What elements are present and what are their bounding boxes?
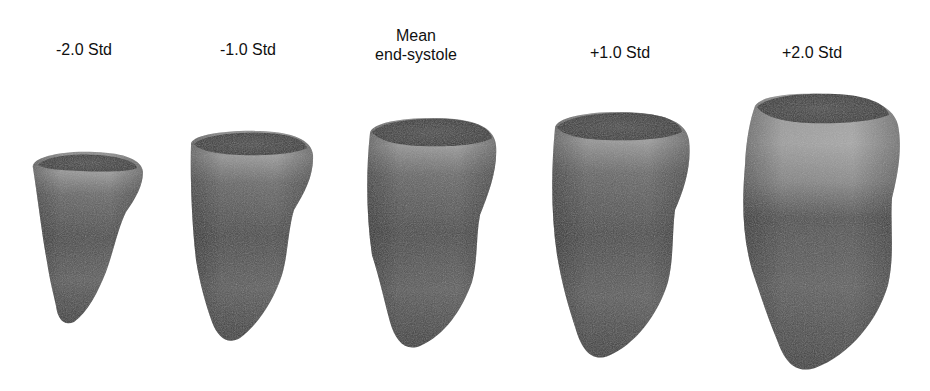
ventricle-plus-1-std (552, 112, 689, 358)
ventricle-minus-2-std (33, 152, 143, 324)
ventricle-mean-end-systole (367, 118, 496, 348)
ventricle-minus-1-std (191, 131, 313, 341)
ventricle-shape-figure (0, 0, 930, 391)
ventricle-plus-2-std (743, 94, 900, 370)
